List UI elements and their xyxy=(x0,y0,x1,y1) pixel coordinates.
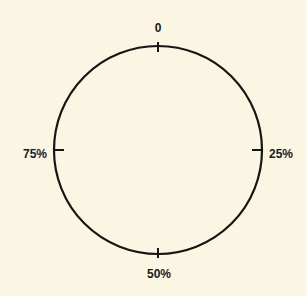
diagram-canvas: 0 25% 50% 75% xyxy=(0,0,307,296)
label-bottom: 50% xyxy=(147,267,171,281)
dial-diagram: 0 25% 50% 75% xyxy=(0,0,307,296)
label-left: 75% xyxy=(23,147,47,161)
label-top: 0 xyxy=(155,21,162,35)
dial-circle xyxy=(54,46,262,254)
label-right: 25% xyxy=(269,147,293,161)
